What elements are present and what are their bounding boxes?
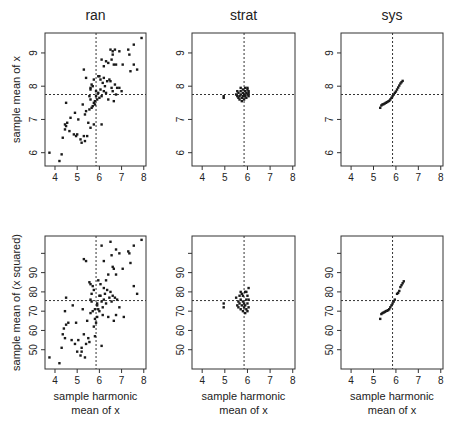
x-tick-label: 7 [267, 172, 273, 183]
data-point [222, 302, 224, 304]
data-point [85, 343, 87, 345]
data-point [247, 95, 249, 97]
data-point [79, 354, 81, 356]
data-point [94, 335, 96, 337]
data-point [94, 103, 96, 105]
data-point [73, 133, 75, 135]
data-point [100, 345, 102, 347]
data-point [115, 93, 117, 95]
data-point [99, 283, 101, 285]
data-point [89, 283, 91, 285]
data-point [235, 296, 237, 298]
data-point [239, 93, 241, 95]
data-point [60, 347, 62, 349]
scatter-panel-mean-ran: 456786789ransample mean of x [10, 7, 147, 183]
data-point [48, 152, 50, 154]
data-point [107, 273, 109, 275]
data-point [105, 302, 107, 304]
y-tick-label: 7 [175, 116, 186, 122]
x-axis-label-line2: mean of x [219, 404, 268, 416]
y-tick-label: 50 [175, 344, 186, 356]
data-point [114, 48, 116, 50]
column-title: ran [85, 7, 105, 23]
data-point [88, 95, 90, 97]
x-tick-label: 8 [290, 172, 296, 183]
scatter-panel-meansq-sys: 456785060708090sample harmonicmean of x [324, 236, 444, 416]
data-point [64, 128, 66, 130]
data-point [247, 306, 249, 308]
data-point [84, 140, 86, 142]
data-point [64, 337, 66, 339]
data-point [85, 77, 87, 79]
data-point [394, 298, 396, 300]
data-point [113, 268, 115, 270]
data-point [74, 112, 76, 114]
data-point [67, 322, 69, 324]
data-point [96, 316, 98, 318]
data-point [65, 102, 67, 104]
data-point [92, 85, 94, 87]
x-tick-label: 4 [348, 172, 354, 183]
x-tick-label: 8 [141, 172, 147, 183]
data-point [109, 80, 111, 82]
data-point [128, 53, 130, 55]
y-tick-label: 6 [324, 149, 335, 155]
data-point [246, 310, 248, 312]
x-tick-label: 5 [222, 172, 228, 183]
data-point [118, 50, 120, 52]
data-point [110, 87, 112, 89]
data-point [102, 82, 104, 84]
y-tick-label: 80 [28, 286, 39, 298]
data-point [89, 312, 91, 314]
data-point [246, 295, 248, 297]
data-point [96, 98, 98, 100]
data-point [90, 300, 92, 302]
data-point [242, 295, 244, 297]
data-point [92, 105, 94, 107]
scatter-panel-mean-strat: 456786789strat [175, 7, 296, 183]
data-point [123, 316, 125, 318]
data-point [136, 293, 138, 295]
data-point [129, 70, 131, 72]
data-point [245, 97, 247, 99]
data-point [102, 314, 104, 316]
data-point [76, 133, 78, 135]
data-point [379, 318, 381, 320]
data-point [246, 302, 248, 304]
data-point [87, 337, 89, 339]
scatter-matrix-figure: 456786789ransample mean of x456786789str… [0, 0, 459, 427]
x-tick-label: 5 [371, 375, 377, 386]
data-point [92, 310, 94, 312]
plot-frame [45, 33, 146, 166]
data-point [245, 298, 247, 300]
data-point [90, 293, 92, 295]
data-point [89, 127, 91, 129]
data-point [103, 90, 105, 92]
data-point [84, 113, 86, 115]
scatter-panel-mean-sys: 456786789sys [324, 7, 444, 183]
data-point [107, 316, 109, 318]
x-axis-label-line2: mean of x [71, 404, 120, 416]
y-tick-label: 80 [324, 286, 335, 298]
x-tick-label: 4 [52, 172, 58, 183]
y-tick-label: 6 [175, 149, 186, 155]
data-point [93, 123, 95, 125]
data-point [118, 306, 120, 308]
data-point [58, 160, 60, 162]
y-tick-label: 8 [324, 83, 335, 89]
data-point [109, 48, 111, 50]
data-point [222, 95, 224, 97]
y-tick-label: 60 [175, 324, 186, 336]
data-point [98, 295, 100, 297]
data-point [95, 90, 97, 92]
data-point [76, 350, 78, 352]
y-tick-label: 50 [28, 344, 39, 356]
data-point [87, 122, 89, 124]
data-point [112, 53, 114, 55]
y-tick-label: 9 [175, 50, 186, 56]
x-tick-label: 7 [119, 172, 125, 183]
y-tick-label: 90 [324, 267, 335, 279]
data-point [237, 306, 239, 308]
data-point [238, 295, 240, 297]
data-point [244, 304, 246, 306]
